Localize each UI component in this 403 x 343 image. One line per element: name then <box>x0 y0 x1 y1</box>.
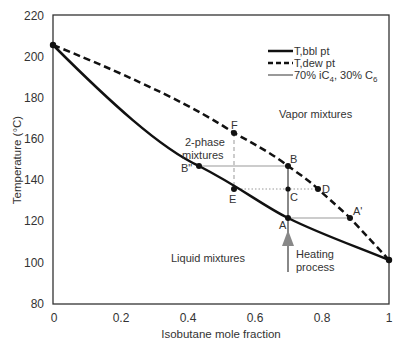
y-tick-label: 160 <box>24 132 44 146</box>
y-tick-label: 100 <box>24 256 44 270</box>
y-tick-label: 200 <box>24 50 44 64</box>
label-liquid-mixtures: Liquid mixtures <box>171 252 245 264</box>
label-D: D <box>322 183 330 195</box>
label-B: B <box>290 153 297 165</box>
x-tick-label: 0 <box>51 311 58 325</box>
legend-label-mix: 70% iC4, 30% C6 <box>294 69 378 84</box>
x-axis-label: Isobutane mole fraction <box>161 328 281 340</box>
y-axis-label: Temperature (°C) <box>11 116 23 204</box>
point-D <box>315 186 321 192</box>
y-tick-label: 180 <box>24 91 44 105</box>
point-pure-ic4 <box>386 257 392 263</box>
label-two-phase: mixtures <box>182 149 224 161</box>
label-A-prime: A' <box>353 205 362 217</box>
x-tick-label: 0.6 <box>247 311 264 325</box>
x-axis: 0 0.2 0.4 0.6 0.8 1 <box>51 311 393 325</box>
y-axis: 80 100 120 140 160 180 200 220 <box>24 9 44 311</box>
phase-diagram-chart: 80 100 120 140 160 180 200 220 Temperatu… <box>0 0 403 343</box>
label-F: F <box>231 119 238 131</box>
label-two-phase: 2-phase <box>185 136 225 148</box>
label-B-double-prime: B" <box>181 162 192 174</box>
label-heating-process: process <box>296 261 335 273</box>
x-tick-label: 0.8 <box>314 311 331 325</box>
y-tick-label: 80 <box>31 297 45 311</box>
point-E <box>231 186 237 192</box>
point-pure-c6 <box>50 42 56 48</box>
label-A: A <box>279 219 287 231</box>
y-tick-label: 140 <box>24 173 44 187</box>
x-tick-label: 1 <box>386 311 393 325</box>
legend: T,bbl pt T,dew pt 70% iC4, 30% C6 <box>268 45 378 84</box>
x-tick-label: 0.2 <box>113 311 130 325</box>
x-tick-label: 0.4 <box>180 311 197 325</box>
label-vapor-mixtures: Vapor mixtures <box>279 108 353 120</box>
point-B-double-prime <box>196 163 202 169</box>
y-tick-label: 120 <box>24 214 44 228</box>
legend-label-dew: T,dew pt <box>294 57 335 69</box>
label-E: E <box>229 193 236 205</box>
legend-label-bbl: T,bbl pt <box>294 45 329 57</box>
y-tick-label: 220 <box>24 9 44 23</box>
label-heating-process: Heating <box>296 248 334 260</box>
label-C: C <box>290 191 298 203</box>
arrow-up-icon <box>282 230 294 246</box>
